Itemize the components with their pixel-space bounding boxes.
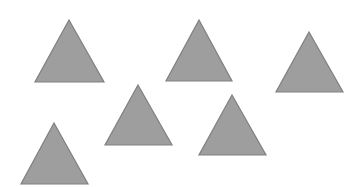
triangle-shape-layer <box>0 0 363 187</box>
image-canvas <box>0 0 363 187</box>
